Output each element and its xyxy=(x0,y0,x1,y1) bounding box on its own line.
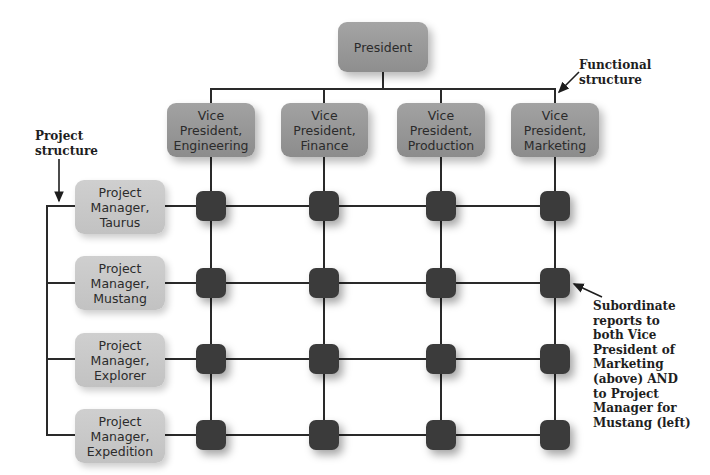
subordinate-arrow-icon xyxy=(574,284,602,297)
annotation-arrows xyxy=(0,0,710,475)
functional-arrow-icon xyxy=(559,72,579,92)
